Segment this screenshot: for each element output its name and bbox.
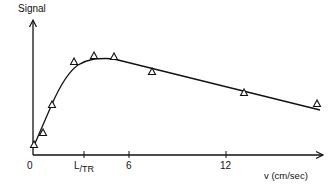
y-axis-label: Signal	[18, 3, 46, 14]
x-axis-label: v (cm/sec)	[264, 170, 308, 181]
fit-curve	[33, 59, 320, 149]
chart-plot	[0, 0, 332, 191]
x-tick-label-6: 6	[126, 160, 132, 171]
triangle-marker	[49, 101, 56, 108]
x-tick-label-0: 0	[27, 160, 33, 171]
triangle-marker	[314, 100, 321, 107]
triangle-marker	[111, 53, 118, 60]
triangle-marker	[71, 58, 78, 65]
x-tick-label-ltr-sub: /TR	[80, 164, 95, 174]
x-tick-label-12: 12	[220, 160, 231, 171]
triangle-marker	[91, 52, 98, 59]
x-tick-label-ltr: L/TR	[74, 160, 94, 174]
triangle-marker	[31, 141, 38, 148]
